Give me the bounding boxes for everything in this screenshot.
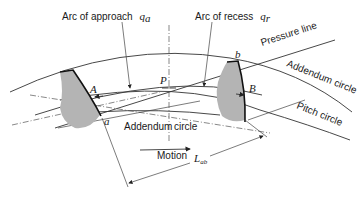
length-of-action-dim-right <box>210 136 263 156</box>
motion-label: Motion <box>157 150 187 161</box>
left-tooth <box>60 70 100 128</box>
gear-action-diagram: Arc of approach qa Arc of recess qr Pres… <box>0 0 362 199</box>
point-b-label: b <box>235 48 241 60</box>
length-of-action-dim-left <box>129 163 190 183</box>
arc-approach-label: Arc of approach qa <box>62 10 151 24</box>
addendum-circle-lower <box>95 111 220 115</box>
point-B-label: B <box>249 82 256 94</box>
addendum-circle-label: Addendum circle <box>285 58 359 96</box>
arc-recess-leader <box>204 22 212 86</box>
point-a-label: a <box>104 115 110 127</box>
point-P-label: P <box>159 74 167 86</box>
arc-recess-label: Arc of recess qr <box>195 10 271 24</box>
extension-line-b <box>245 120 267 137</box>
addendum-circle-center-label-right: circle <box>174 121 198 132</box>
length-of-action-label: Lab <box>193 152 208 166</box>
addendum-circle-center-label-left: Addendum <box>124 121 172 132</box>
diagram-svg: Arc of approach qa Arc of recess qr Pres… <box>0 0 362 199</box>
arc-approach-leader <box>122 22 130 88</box>
point-A-label: A <box>89 83 97 95</box>
